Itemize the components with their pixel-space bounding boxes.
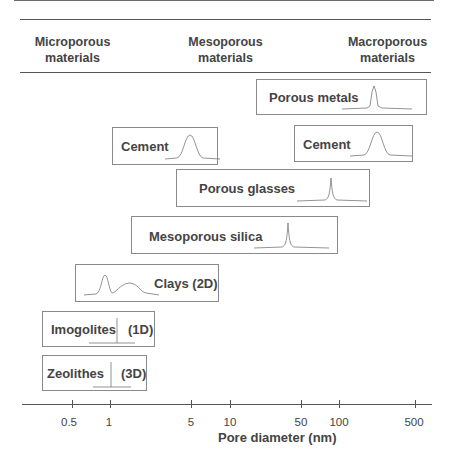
- tick: [191, 400, 192, 408]
- tick-label: 10: [224, 416, 237, 428]
- distribution-curve-icon: [254, 219, 329, 251]
- category-line: Mesoporous: [183, 34, 268, 50]
- x-axis: [22, 404, 432, 405]
- top-border: [14, 0, 434, 1]
- tick: [301, 400, 302, 408]
- tick-label: 0.5: [61, 416, 77, 428]
- box-zeolithes: Zeolithes (3D): [42, 355, 147, 391]
- distribution-curve-icon: [342, 82, 412, 112]
- box-label: Cement: [121, 139, 169, 154]
- category-mesoporous: Mesoporous materials: [183, 34, 268, 66]
- header-top-rule: [20, 19, 431, 20]
- header-bottom-rule: [20, 72, 431, 73]
- box-imogolites: Imogolites (1D): [42, 311, 155, 347]
- distribution-line-icon: [93, 358, 138, 388]
- distribution-line-icon: [89, 314, 139, 344]
- tick-label: 50: [295, 416, 308, 428]
- category-line: materials: [183, 50, 268, 66]
- x-axis-label: Pore diameter (nm): [218, 430, 336, 445]
- distribution-curve-icon: [350, 128, 412, 160]
- tick: [72, 400, 73, 408]
- box-mesoporous-silica: Mesoporous silica: [131, 216, 338, 254]
- box-cement-macro: Cement: [294, 125, 413, 162]
- category-line: Microporous: [30, 34, 115, 50]
- distribution-curve-icon: [297, 172, 367, 204]
- tick-label: 500: [404, 416, 423, 428]
- category-line: materials: [345, 50, 430, 66]
- box-cement-meso: Cement: [112, 127, 218, 165]
- tick: [230, 400, 231, 408]
- box-porous-metals: Porous metals: [256, 79, 427, 115]
- tick-label: 100: [329, 416, 348, 428]
- box-clays: Clays (2D): [75, 264, 219, 302]
- box-label: Mesoporous silica: [149, 229, 262, 244]
- tick: [110, 400, 111, 408]
- box-label: Cement: [303, 137, 351, 152]
- distribution-curve-icon: [84, 267, 159, 299]
- tick: [415, 400, 416, 408]
- distribution-curve-icon: [165, 130, 220, 162]
- category-macroporous: Macroporous materials: [345, 34, 430, 66]
- tick-label: 1: [106, 416, 112, 428]
- box-porous-glasses: Porous glasses: [176, 169, 370, 207]
- category-line: materials: [30, 50, 115, 66]
- box-label: Porous glasses: [199, 181, 295, 196]
- category-line: Macroporous: [345, 34, 430, 50]
- tick-label: 5: [188, 416, 194, 428]
- category-microporous: Microporous materials: [30, 34, 115, 66]
- box-label: Clays (2D): [154, 276, 218, 291]
- tick: [339, 400, 340, 408]
